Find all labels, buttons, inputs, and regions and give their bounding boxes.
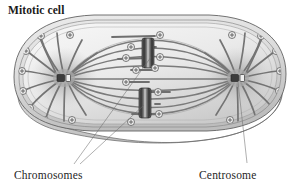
label-centrosome: Centrosome (199, 169, 257, 181)
centrosome-left (53, 69, 75, 87)
chromosome-lower (139, 88, 151, 118)
figure-title: Mitotic cell (8, 4, 64, 16)
mitotic-cell-figure: Mitotic cell Chromosomes Centrosome (0, 0, 299, 187)
chromosome-upper (142, 38, 154, 68)
label-chromosomes: Chromosomes (14, 169, 83, 181)
